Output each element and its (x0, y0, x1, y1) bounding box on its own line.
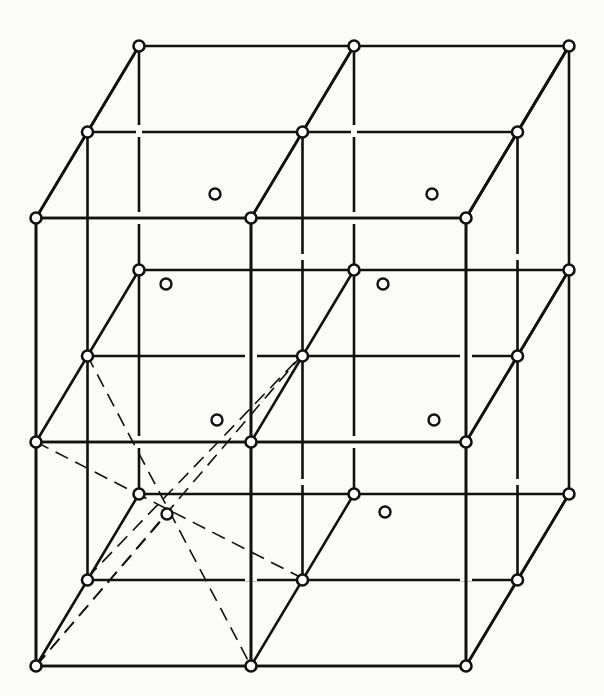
lattice-node (297, 127, 308, 138)
lattice-node (82, 575, 93, 586)
lattice-node (246, 437, 257, 448)
face-atom (380, 507, 391, 518)
lattice-node (461, 661, 472, 672)
lattice-node (564, 489, 575, 500)
face-atom (161, 279, 172, 290)
lattice-node (349, 41, 360, 52)
lattice-node (246, 661, 257, 672)
hidden-line-gap (512, 254, 524, 260)
hidden-line-gap (296, 479, 308, 485)
lattice-node (31, 213, 42, 224)
lattice-node (31, 437, 42, 448)
lattice-node (512, 351, 523, 362)
lattice-node (512, 575, 523, 586)
lattice-node (512, 127, 523, 138)
dashed-diagonal (36, 514, 167, 666)
lattice-node (82, 127, 93, 138)
dashed-diagonal (87, 355, 302, 578)
lattice-node (461, 213, 472, 224)
lattice-node (297, 575, 308, 586)
lattice-node (564, 41, 575, 52)
lattice-canvas (0, 0, 604, 696)
lattice-node (134, 489, 145, 500)
lattice-node (461, 437, 472, 448)
hidden-line-gap (512, 479, 524, 485)
face-atom (429, 415, 440, 426)
lattice-node (349, 489, 360, 500)
hidden-line-gap (351, 125, 357, 137)
lattice-node (564, 265, 575, 276)
hidden-line-gap (136, 125, 142, 137)
face-atom (210, 189, 221, 200)
lattice-node (297, 351, 308, 362)
face-atom (378, 279, 389, 290)
hidden-line-gap (296, 254, 308, 260)
lattice-node (31, 661, 42, 672)
lattice-node (82, 351, 93, 362)
face-atom (427, 189, 438, 200)
lattice-node (134, 265, 145, 276)
lattice-node (134, 41, 145, 52)
face-atom (212, 415, 223, 426)
lattice-diagram (0, 0, 604, 696)
center-atom (162, 509, 173, 520)
lattice-node (246, 213, 257, 224)
lattice-node (349, 265, 360, 276)
